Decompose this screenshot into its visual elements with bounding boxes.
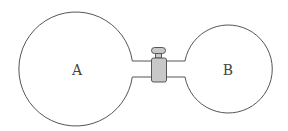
two-vessel-diagram: A B [0,0,288,131]
valve-icon [152,48,167,83]
valve-neck [156,54,162,59]
valve-cap [152,48,166,54]
valve-body [152,58,167,82]
vessel-b-label: B [223,62,233,78]
vessel-a-label: A [71,62,83,78]
